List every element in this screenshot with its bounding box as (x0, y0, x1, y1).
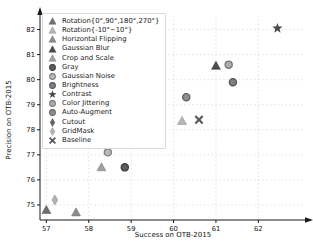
legend-label: Brightness (62, 81, 99, 90)
y-tick-label: 76 (26, 176, 35, 184)
point-brightness (229, 79, 236, 86)
legend-item-gridmask: GridMask (47, 127, 159, 136)
legend-label: Gaussian Blur (62, 44, 110, 53)
legend-label: Rotation{-10°~10°} (62, 26, 132, 35)
point-horizontal-flipping (72, 208, 81, 216)
legend-marker-icon (49, 45, 56, 51)
point-rotation-0-90-180-270 (42, 205, 51, 213)
legend-label: Cutout (62, 118, 85, 127)
legend-marker-icon (50, 64, 56, 70)
y-tick-label: 82 (26, 26, 35, 34)
y-tick-label: 79 (26, 101, 35, 109)
legend-item-gray: Gray (47, 63, 159, 72)
y-tick-label: 75 (26, 201, 35, 209)
y-tick-label: 81 (26, 51, 35, 59)
point-baseline (195, 115, 204, 124)
legend-label: Contrast (62, 90, 91, 99)
y-tick-label: 77 (26, 151, 35, 159)
legend-label: GridMask (62, 127, 94, 136)
x-tick-label: 62 (254, 225, 263, 233)
legend: Rotation{0°,90°,180°,270°}Rotation{-10°~… (42, 13, 166, 149)
legend-marker-icon (49, 18, 56, 24)
x-tick-label: 57 (42, 225, 51, 233)
baseline-marker-icon (47, 135, 58, 146)
legend-marker-icon (49, 27, 56, 33)
legend-item-gaussian-blur: Gaussian Blur (47, 44, 159, 53)
legend-item-brightness: Brightness (47, 81, 159, 90)
point-gaussian-noise (104, 149, 111, 156)
legend-marker-icon (49, 36, 56, 42)
legend-label: Gaussian Noise (62, 72, 115, 81)
point-crop-and-scale (97, 163, 106, 171)
legend-item-horizontal-flipping: Horizontal Flipping (47, 35, 159, 44)
legend-label: Baseline (62, 136, 91, 145)
legend-marker-icon (49, 54, 56, 60)
point-auto-augment (183, 94, 190, 101)
legend-item-baseline: Baseline (47, 136, 159, 145)
point-contrast (272, 23, 282, 33)
legend-label: Gray (62, 63, 78, 72)
legend-marker-icon (50, 83, 56, 89)
legend-label: Rotation{0°,90°,180°,270°} (62, 17, 159, 26)
legend-marker-icon (49, 137, 56, 144)
legend-item-cutout: Cutout (47, 118, 159, 127)
point-gaussian-blur (212, 61, 221, 69)
legend-marker-icon (50, 101, 56, 107)
point-rotation-10-10 (178, 116, 187, 124)
legend-item-contrast: Contrast (47, 90, 159, 99)
point-gray (121, 164, 128, 171)
x-axis-arrow-icon (305, 217, 313, 222)
legend-item-auto-augment: Auto-Augment (47, 108, 159, 117)
legend-item-gaussian-noise: Gaussian Noise (47, 72, 159, 81)
y-tick-label: 80 (26, 76, 35, 84)
legend-item-rotation-10-10: Rotation{-10°~10°} (47, 26, 159, 35)
legend-item-color-jittering: Color Jittering (47, 99, 159, 108)
y-tick-label: 78 (26, 126, 35, 134)
x-tick-label: 58 (84, 225, 93, 233)
point-color-jittering (225, 61, 232, 68)
legend-marker-icon (50, 110, 56, 116)
scatter-plot-figure: 5758596061627576777879808182 Rotation{0°… (0, 0, 313, 248)
legend-label: Horizontal Flipping (62, 35, 127, 44)
point-gridmask (52, 195, 58, 205)
legend-marker-icon (50, 74, 56, 80)
legend-label: Auto-Augment (62, 108, 112, 117)
x-axis-label: Success on OTB-2015 (135, 231, 211, 239)
legend-item-crop-and-scale: Crop and Scale (47, 54, 159, 63)
legend-marker-icon (48, 90, 56, 98)
y-axis-label: Precision on OTB-2015 (5, 80, 13, 159)
x-tick-label: 61 (212, 225, 221, 233)
legend-item-rotation-0-90-180-270: Rotation{0°,90°,180°,270°} (47, 17, 159, 26)
legend-label: Crop and Scale (62, 54, 114, 63)
legend-label: Color Jittering (62, 99, 109, 108)
